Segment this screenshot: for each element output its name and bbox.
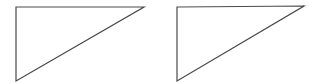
- diagram-canvas: [0, 0, 316, 84]
- right-triangle: [177, 6, 304, 81]
- left-triangle: [16, 7, 144, 81]
